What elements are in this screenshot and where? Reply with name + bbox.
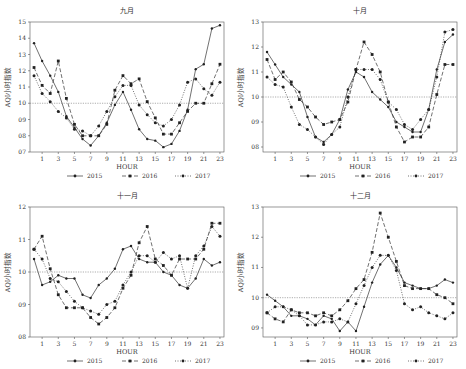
series-2015 [33,24,221,148]
data-point [387,236,390,239]
x-tick-label: 9 [105,340,109,347]
data-point [218,81,221,84]
data-point [105,110,108,113]
data-point [41,235,44,238]
data-point [298,314,301,317]
data-point [202,87,205,90]
y-axis-label: AQI小时指数 [3,252,12,294]
data-point [338,126,341,129]
data-point [427,311,430,314]
series-2016 [33,222,222,326]
data-point [274,317,277,320]
y-tick-label: 09 [251,324,259,331]
series-2016 [266,41,455,144]
data-point [371,68,374,71]
data-point [186,110,189,113]
data-point [290,315,292,317]
data-point [379,98,381,100]
data-point [98,284,100,286]
data-point [146,225,149,228]
data-point [89,316,92,319]
data-point [435,293,438,296]
data-point [427,287,430,290]
x-tick-label: 5 [73,340,77,347]
data-point [105,303,108,306]
data-point [387,106,389,108]
legend-label: 2015 [320,357,335,364]
data-point [146,261,148,263]
x-tick-label: 11 [119,155,127,162]
data-point [194,254,197,257]
data-point [146,113,149,116]
data-point [338,118,341,121]
data-point [306,323,309,326]
data-point [219,222,222,225]
x-tick-label: 21 [433,340,441,347]
data-point [195,277,197,279]
x-tick-label: 19 [184,340,192,347]
data-point [306,311,309,314]
legend-label: 2017 [428,357,443,364]
data-point [138,258,140,260]
data-point [41,84,44,87]
data-point [322,315,324,317]
series-2016 [33,60,222,138]
data-point [395,260,398,263]
data-point [219,24,221,26]
data-point [371,53,374,56]
chart-svg: 十二月09101112131357911131517192123HOURAQI小… [233,185,466,369]
data-point [411,128,414,131]
data-point [443,317,446,320]
data-point [290,308,293,311]
legend-item-2015: 2015 [300,357,335,364]
data-point [154,116,157,119]
data-point [41,60,43,62]
data-point [363,278,366,281]
data-point [57,280,60,283]
data-point [211,264,213,266]
data-point [65,277,67,279]
chart-title: 十月 [353,6,367,15]
chart-october: 十月0809101112131357911131517192123HOURAQI… [233,0,466,184]
data-point [338,317,341,320]
data-point [282,71,285,74]
x-tick-label: 5 [306,155,310,162]
series-2015 [266,254,454,332]
data-point [403,126,405,128]
data-point [130,109,132,111]
data-point [219,261,221,263]
x-tick-label: 15 [151,340,159,347]
data-point [186,258,189,261]
y-tick-label: 08 [251,143,259,150]
data-point [395,108,398,111]
data-point [427,126,430,129]
data-point [154,261,157,264]
data-point [41,258,44,261]
data-point [210,222,213,225]
data-point [202,248,205,251]
data-point [89,310,92,313]
data-point [33,42,35,44]
legend-item-2017: 2017 [408,172,443,179]
legend-label: 2015 [87,172,102,179]
x-tick-label: 13 [368,155,376,162]
data-point [49,74,51,76]
data-point [355,287,358,290]
chart-svg: 十一月08091011121357911131517192123HOURAQI小… [0,185,233,369]
legend-item-2015: 2015 [67,172,102,179]
data-point [57,293,60,296]
plot-frame [263,207,457,337]
data-point [395,121,397,123]
series-2017 [33,225,222,316]
data-point [443,296,446,299]
x-tick-label: 9 [338,340,342,347]
data-point [81,129,84,132]
data-point [395,269,398,272]
x-tick-label: 17 [168,340,176,347]
x-tick-label: 3 [56,340,60,347]
data-point [113,95,116,98]
x-tick-label: 13 [135,155,143,162]
data-point [371,281,373,283]
data-point [81,306,84,309]
data-point [89,144,91,146]
